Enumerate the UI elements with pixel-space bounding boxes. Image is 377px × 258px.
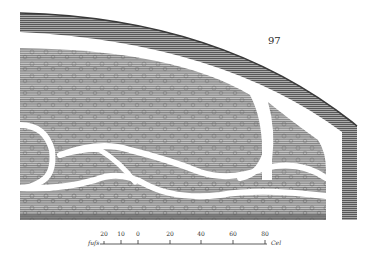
scale-tick-label: 80 — [261, 230, 269, 237]
scale-tick-label: 60 — [229, 230, 237, 237]
histology-engraving — [0, 0, 377, 258]
scale-tick-label: 0 — [136, 230, 140, 237]
scale-tick-label: 20 — [100, 230, 108, 237]
scale-bar — [100, 240, 267, 244]
scale-tick-label: 40 — [197, 230, 205, 237]
scale-tick-label: 20 — [166, 230, 174, 237]
scale-tick-label: 10 — [117, 230, 125, 237]
scale-left-unit: fuſs — [88, 239, 99, 246]
page-number: 97 — [268, 35, 281, 46]
scale-right-unit: Cel — [271, 239, 281, 246]
